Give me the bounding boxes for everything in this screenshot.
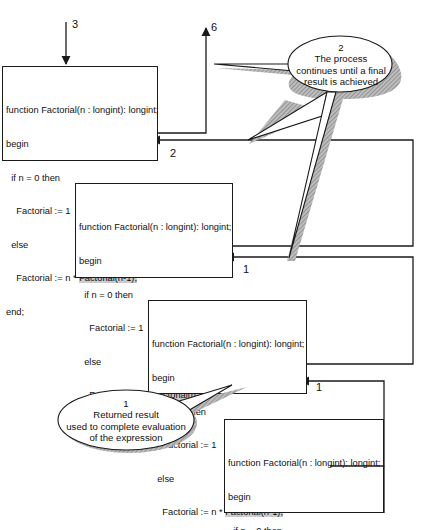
arrow-label-output: 6 (211, 21, 217, 33)
callout-line: continues until a final (288, 65, 394, 76)
arrow-label-return-1a: 1 (243, 263, 249, 275)
callout-2-text: 2 The process continues until a final re… (288, 42, 394, 87)
callout-number: 1 (58, 398, 194, 409)
arrow-label-return-1b: 1 (316, 381, 322, 393)
callout-line: result is achieved (288, 76, 394, 87)
callout-line: The process (288, 53, 394, 64)
callout-line: Returned result (58, 409, 194, 420)
callout-1-text: 1 Returned result used to complete evalu… (58, 398, 194, 443)
callout-line: of the expression (58, 432, 194, 443)
callout-number: 2 (288, 42, 394, 53)
callout-line: used to complete evaluation (58, 421, 194, 432)
arrow-label-input: 3 (72, 18, 78, 30)
arrow-label-return-2: 2 (170, 147, 176, 159)
